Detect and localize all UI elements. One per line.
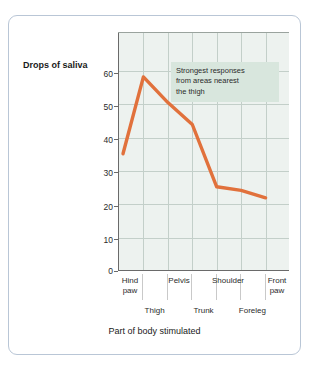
x-label-front-paw-line2: paw xyxy=(270,286,285,295)
figure-frame: Drops of saliva 60 50 40 30 20 10 0 Stro… xyxy=(8,15,301,355)
y-tick-label-10: 10 xyxy=(87,235,113,245)
x-label-front-paw: Front paw xyxy=(268,276,287,296)
x-axis-title: Part of body stimulated xyxy=(9,326,300,336)
y-tick-label-50: 50 xyxy=(87,102,113,112)
x-divider-1 xyxy=(142,274,143,300)
annotation-line-3: the thigh xyxy=(176,87,274,97)
x-divider-3 xyxy=(191,274,192,300)
x-label-front-paw-line1: Front xyxy=(268,276,287,285)
annotation-line-2: from areas nearest xyxy=(176,76,274,86)
y-tick-label-40: 40 xyxy=(87,135,113,145)
x-label-hind-paw-line1: Hind xyxy=(122,276,138,285)
x-label-foreleg: Foreleg xyxy=(239,306,266,316)
y-tick-label-30: 30 xyxy=(87,168,113,178)
x-axis-labels-upper: Hind paw Pelvis Shoulder Front paw xyxy=(118,274,289,304)
y-tick-label-60: 60 xyxy=(87,69,113,79)
x-label-trunk: Trunk xyxy=(193,306,213,316)
x-label-pelvis: Pelvis xyxy=(168,276,189,286)
y-tick-label-20: 20 xyxy=(87,202,113,212)
annotation-line-1: Strongest responses xyxy=(176,66,274,76)
annotation-strongest-responses: Strongest responses from areas nearest t… xyxy=(171,62,279,102)
y-tick-mark-0 xyxy=(114,271,118,272)
x-divider-6 xyxy=(265,274,266,300)
y-axis-tick-labels: 60 50 40 30 20 10 0 xyxy=(87,16,113,356)
x-label-shoulder-line1: Shoulder xyxy=(212,276,244,285)
x-label-thigh: Thigh xyxy=(145,306,165,316)
x-label-hind-paw: Hind paw xyxy=(122,276,138,296)
y-tick-label-0: 0 xyxy=(87,266,113,276)
x-label-hind-paw-line2: paw xyxy=(123,286,138,295)
x-label-pelvis-line1: Pelvis xyxy=(168,276,189,285)
y-axis-title: Drops of saliva xyxy=(23,60,88,70)
x-label-shoulder: Shoulder xyxy=(212,276,244,286)
x-axis-labels-lower: Thigh Trunk Foreleg xyxy=(118,306,289,322)
